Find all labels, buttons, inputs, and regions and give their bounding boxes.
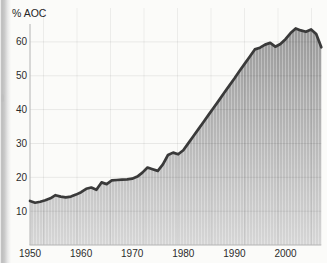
y-tick-label: 40 [16, 104, 28, 115]
x-tick-labels: 195019601970198019902000 [19, 248, 297, 259]
x-tick-label: 1990 [223, 248, 246, 259]
x-tick-label: 1970 [121, 248, 144, 259]
x-tick-label: 1960 [70, 248, 93, 259]
y-tick-label: 10 [16, 206, 28, 217]
chart-title: % AOC [12, 7, 47, 19]
x-tick-label: 2000 [274, 248, 297, 259]
x-tick-label: 1980 [172, 248, 195, 259]
y-tick-label: 30 [16, 138, 28, 149]
y-tick-label: 20 [16, 172, 28, 183]
y-tick-label: 60 [16, 36, 28, 47]
aoc-area-chart: 195019601970198019902000 102030405060 % … [0, 0, 327, 263]
figure: 195019601970198019902000 102030405060 % … [0, 0, 327, 263]
x-tick-label: 1950 [19, 248, 42, 259]
y-tick-label: 50 [16, 70, 28, 81]
y-tick-labels: 102030405060 [16, 36, 28, 216]
